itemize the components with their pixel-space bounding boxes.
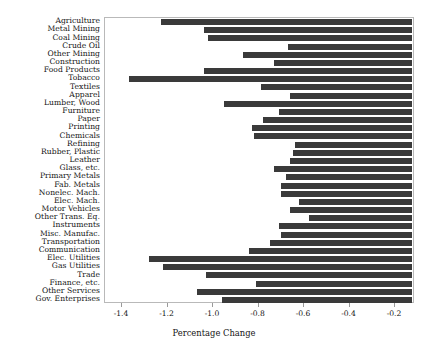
tick-label: -0.8 xyxy=(238,309,278,318)
tick-mark xyxy=(212,303,213,307)
bar xyxy=(252,125,412,131)
category-label: Coal Mining xyxy=(0,34,100,42)
tick-mark xyxy=(303,303,304,307)
bar xyxy=(243,52,412,58)
bar xyxy=(204,68,412,74)
bar xyxy=(129,76,412,82)
bar xyxy=(270,240,412,246)
bar xyxy=(279,223,412,229)
category-label: Instruments xyxy=(0,221,100,229)
tick-mark xyxy=(258,303,259,307)
tick-mark xyxy=(394,303,395,307)
tick-mark xyxy=(349,303,350,307)
bar xyxy=(274,60,412,66)
bar xyxy=(224,101,412,107)
tick-label: -0.6 xyxy=(283,309,323,318)
bar xyxy=(256,281,412,287)
category-label: Trade xyxy=(0,271,100,279)
bars-container xyxy=(105,18,413,302)
bar xyxy=(204,27,412,33)
category-label: Gov. Enterprises xyxy=(0,295,100,303)
category-axis-labels: AgricultureMetal MiningCoal MiningCrude … xyxy=(0,17,100,303)
bar xyxy=(263,117,412,123)
category-label: Primary Metals xyxy=(0,172,100,180)
bar xyxy=(290,207,412,213)
category-label: Metal Mining xyxy=(0,25,100,33)
tick-label: -1.2 xyxy=(147,309,187,318)
bar xyxy=(261,84,412,90)
bar xyxy=(290,158,412,164)
bar xyxy=(281,191,412,197)
bar xyxy=(149,256,412,262)
tick-label: -1.0 xyxy=(192,309,232,318)
bar xyxy=(163,264,412,270)
tick-label: -0.4 xyxy=(329,309,369,318)
tick-label: -1.4 xyxy=(101,309,141,318)
bar xyxy=(279,109,412,115)
horizontal-bar-chart: AgricultureMetal MiningCoal MiningCrude … xyxy=(0,0,428,355)
bar xyxy=(208,35,412,41)
bar xyxy=(249,248,412,254)
bar xyxy=(295,142,412,148)
bar xyxy=(197,289,412,295)
tick-label: -0.2 xyxy=(374,309,414,318)
bar xyxy=(288,44,412,50)
x-axis-title: Percentage Change xyxy=(0,328,428,338)
bar xyxy=(206,272,412,278)
bar xyxy=(274,166,412,172)
plot-area xyxy=(104,17,414,303)
bar xyxy=(293,150,412,156)
category-label: Printing xyxy=(0,123,100,131)
bar xyxy=(290,93,412,99)
bar xyxy=(299,199,412,205)
bar xyxy=(281,232,412,238)
tick-mark xyxy=(167,303,168,307)
category-label: Textiles xyxy=(0,83,100,91)
bar xyxy=(286,174,412,180)
bar xyxy=(254,133,412,139)
bar xyxy=(309,215,413,221)
bar xyxy=(161,19,412,25)
category-label: Gas Utilities xyxy=(0,262,100,270)
category-label: Tobacco xyxy=(0,74,100,82)
bar xyxy=(281,183,412,189)
tick-mark xyxy=(121,303,122,307)
bar xyxy=(222,297,412,303)
